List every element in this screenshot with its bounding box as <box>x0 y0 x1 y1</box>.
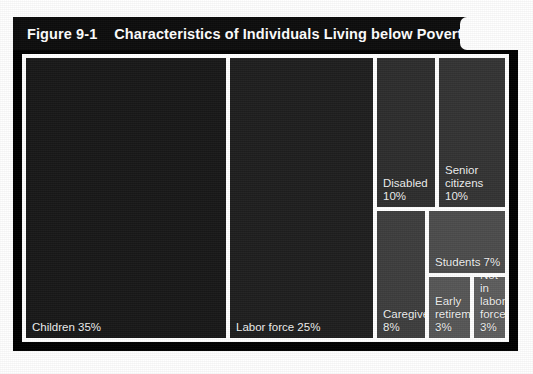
treemap-cell-label: Children 35% <box>32 321 101 334</box>
figure-title-bar: Figure 9-1 Characteristics of Individual… <box>13 17 518 50</box>
treemap-cell-label: Labor force 25% <box>236 321 320 334</box>
treemap-cell-not-in-labor-force[interactable]: Not in labor force 3% <box>474 277 505 338</box>
title-bar-notch <box>460 17 518 50</box>
treemap-cell-label: Disabled 10% <box>383 177 435 203</box>
treemap-cell-caregivers[interactable]: Caregivers 8% <box>377 211 425 338</box>
treemap-cell-students[interactable]: Students 7% <box>429 211 505 273</box>
treemap-cell-label: Students 7% <box>435 256 500 269</box>
treemap-cell-disabled[interactable]: Disabled 10% <box>377 58 435 207</box>
treemap-chart: Children 35% Labor force 25% Disabled 10… <box>22 54 509 342</box>
treemap-cell-children[interactable]: Children 35% <box>26 58 226 338</box>
treemap-cell-label: Senior citizens 10% <box>445 164 505 203</box>
page-title: Characteristics of Individuals Living be… <box>114 26 510 42</box>
treemap-cell-label: Caregivers 8% <box>383 308 425 334</box>
figure-container: Figure 9-1 Characteristics of Individual… <box>13 17 518 351</box>
treemap-cell-labor-force[interactable]: Labor force 25% <box>230 58 373 338</box>
figure-number: Figure 9-1 <box>27 26 97 42</box>
treemap-cell-label: Not in labor force 3% <box>480 277 505 334</box>
treemap-cell-early-retirement[interactable]: Early retirement 3% <box>429 277 470 338</box>
treemap-cell-label: Early retirement 3% <box>435 295 470 334</box>
treemap-cell-senior-citizens[interactable]: Senior citizens 10% <box>439 58 505 207</box>
figure-title-group: Figure 9-1 Characteristics of Individual… <box>27 17 511 50</box>
